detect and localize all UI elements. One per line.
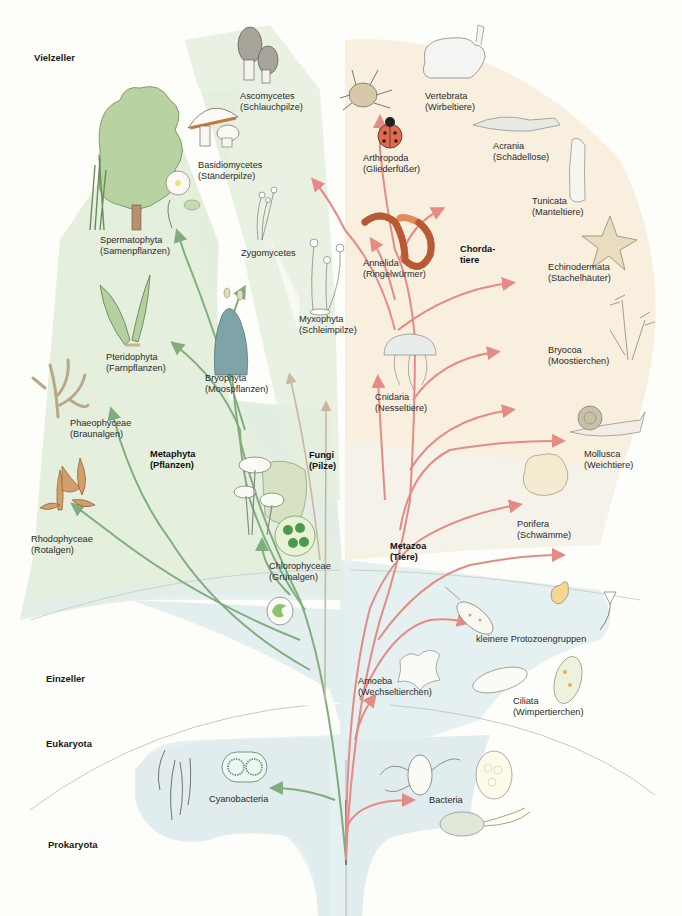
taxon-name: Cnidaria [375,392,427,403]
kingdom-label-chordata: Chorda- tiere [460,244,495,265]
taxon-label-amoeba: Amoeba (Wechseltierchen) [358,676,432,697]
taxon-common-name: (Nesseltiere) [375,403,427,414]
taxon-name: Ciliata [513,696,583,707]
taxon-label-vertebrata: Vertebrata (Wirbeltiere) [425,91,475,112]
taxon-common-name: (Ständerpilze) [198,171,262,182]
kingdom-common-name: (Pilze) [309,461,336,472]
zone-label-vielzeller: Vielzeller [34,52,75,63]
taxon-label-arthropoda: Arthropoda (Gliederfüßer) [363,153,420,174]
taxon-common-name: (Moostierchen) [548,356,609,367]
taxon-label-bacteria: Bacteria [429,795,463,806]
taxon-name: Cyanobacteria [209,794,268,805]
tree-of-life-diagram: Vielzeller Einzeller Eukaryota Prokaryot… [0,0,682,916]
taxon-common-name: (Weichtiere) [584,460,633,471]
kingdom-label-fungi: Fungi (Pilze) [309,450,336,471]
kingdom-label-metaphyta: Metaphyta (Pflanzen) [150,449,195,470]
taxon-common-name: (Gliederfüßer) [363,164,420,175]
taxon-label-myxophyta: Myxophyta (Schleimpilze) [299,314,357,335]
taxon-label-acrania: Acrania (Schädellose) [493,141,549,162]
taxon-label-cyanobacteria: Cyanobacteria [209,794,268,805]
taxon-name: Pteridophyta [106,352,166,363]
taxon-common-name: (Wimpertierchen) [513,707,583,718]
diagram-background [0,0,682,916]
taxon-label-spermatophyta: Spermatophyta (Samenpflanzen) [100,235,170,256]
taxon-name: Amoeba [358,676,432,687]
kingdom-name: Metaphyta [150,449,195,460]
taxon-label-mollusca: Mollusca (Weichtiere) [584,449,633,470]
kingdom-common-name: (Tiere) [390,552,426,563]
taxon-common-name: (Farnpflanzen) [106,363,166,374]
taxon-label-annelida: Annelida (Ringelwürmer) [363,258,426,279]
taxon-name: Porifera [517,519,571,530]
taxon-label-protozoa: kleinere Protozoengruppen [476,634,586,645]
taxon-common-name: (Ringelwürmer) [363,269,426,280]
kingdom-name: Chorda- [460,244,495,255]
kingdom-name: Metazoa [390,541,426,552]
chlamydomonas-illustration [267,597,293,625]
taxon-common-name: (Manteltiere) [532,207,584,218]
taxon-label-zygomycetes: Zygomycetes [241,248,296,259]
taxon-name: Bacteria [429,795,463,806]
bryophyta-illustration [214,288,247,375]
zone-label-prokaryota: Prokaryota [48,839,98,850]
taxon-name: Chlorophyceae [269,561,331,572]
taxon-name: Acrania [493,141,549,152]
taxon-label-rhodophyceae: Rhodophyceae (Rotalgen) [31,534,93,555]
taxon-name: Mollusca [584,449,633,460]
taxon-name: Echinodermata [548,262,611,273]
zone-label-eukaryota: Eukaryota [46,738,92,749]
taxon-name: Vertebrata [425,91,475,102]
taxon-label-pteridophyta: Pteridophyta (Farnpflanzen) [106,352,166,373]
taxon-label-bryophyta: Bryophyta (Moospflanzen) [205,373,268,394]
taxon-name: Bryocoa [548,345,609,356]
taxon-common-name: (Stachelhäuter) [548,273,611,284]
taxon-name: kleinere Protozoengruppen [476,634,586,645]
taxon-name: Tunicata [532,196,584,207]
taxon-common-name: (Grünalgen) [269,572,331,583]
taxon-label-echinodermata: Echinodermata (Stachelhäuter) [548,262,611,283]
taxon-name: Arthropoda [363,153,420,164]
vertebrata-illustration [423,25,485,78]
taxon-label-cnidaria: Cnidaria (Nesseltiere) [375,392,427,413]
taxon-label-basidiomycetes: Basidiomycetes (Ständerpilze) [198,160,262,181]
taxon-label-chlorophyceae: Chlorophyceae (Grünalgen) [269,561,331,582]
taxon-common-name: (Schleimpilze) [299,325,357,336]
taxon-common-name: (Braunalgen) [70,429,131,440]
taxon-label-ciliata: Ciliata (Wimpertierchen) [513,696,583,717]
taxon-name: Basidiomycetes [198,160,262,171]
porifera-illustration [523,454,568,496]
taxon-common-name: (Moospflanzen) [205,384,268,395]
taxon-common-name: (Wechseltierchen) [358,687,432,698]
taxon-common-name: (Schlauchpilze) [240,102,303,113]
taxon-label-phaeophyceae: Phaeophyceae (Braunalgen) [70,418,131,439]
taxon-name: Rhodophyceae [31,534,93,545]
taxon-common-name: (Schädellose) [493,152,549,163]
taxon-name: Annelida [363,258,426,269]
taxon-common-name: (Rotalgen) [31,545,93,556]
taxon-name: Phaeophyceae [70,418,131,429]
kingdom-label-metazoa: Metazoa (Tiere) [390,541,426,562]
kingdom-common-name: (Pflanzen) [150,460,195,471]
taxon-name: Myxophyta [299,314,357,325]
taxon-label-bryocoa: Bryocoa (Moostierchen) [548,345,609,366]
taxon-common-name: (Samenpflanzen) [100,246,170,257]
taxon-common-name: (Wirbeltiere) [425,102,475,113]
taxon-name: Zygomycetes [241,248,296,259]
taxon-label-porifera: Porifera (Schwämme) [517,519,571,540]
tunicata-illustration [569,138,585,202]
taxon-name: Ascomycetes [240,91,303,102]
taxon-name: Bryophyta [205,373,268,384]
taxon-label-tunicata: Tunicata (Manteltiere) [532,196,584,217]
taxon-name: Spermatophyta [100,235,170,246]
taxon-common-name: (Schwämme) [517,530,571,541]
kingdom-name: Fungi [309,450,336,461]
zone-label-einzeller: Einzeller [46,673,85,684]
taxon-label-ascomycetes: Ascomycetes (Schlauchpilze) [240,91,303,112]
kingdom-common-name: tiere [460,255,495,266]
